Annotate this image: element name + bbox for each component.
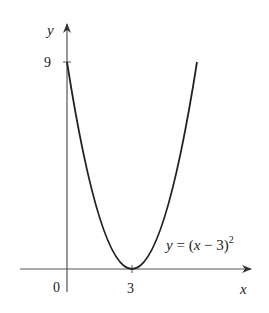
equation-label: y = (x − 3)2 <box>164 234 234 254</box>
origin-label: 0 <box>53 280 60 295</box>
x-tick-label-3: 3 <box>127 281 134 296</box>
y-tick-label-9: 9 <box>44 55 51 70</box>
x-axis-label: x <box>239 281 247 297</box>
y-axis-label: y <box>45 22 54 38</box>
parabola-graph: y 9 0 3 x y = (x − 3)2 <box>0 0 269 313</box>
